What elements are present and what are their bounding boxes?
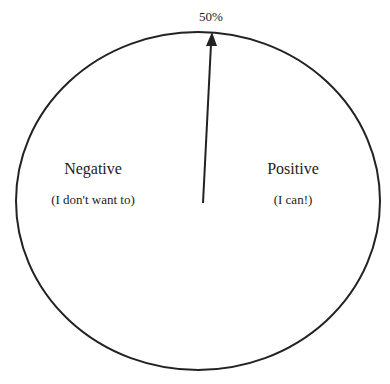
positive-label: Positive bbox=[267, 160, 319, 178]
top-percent-label: 50% bbox=[199, 9, 223, 25]
positive-subtitle: (I can!) bbox=[274, 192, 313, 208]
negative-subtitle: (I don't want to) bbox=[51, 192, 135, 208]
negative-label: Negative bbox=[64, 160, 122, 178]
arrowhead-icon bbox=[206, 32, 217, 46]
pointer-arrow-shaft bbox=[203, 44, 211, 203]
